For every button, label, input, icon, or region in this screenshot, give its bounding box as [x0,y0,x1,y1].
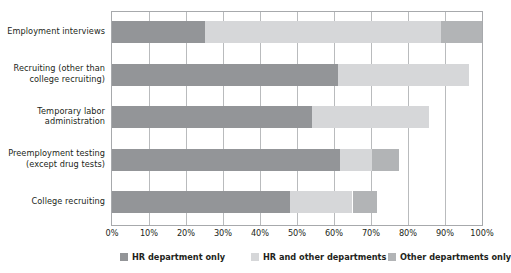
bar-segment [338,64,469,86]
bar-row [112,21,482,43]
legend-label: HR and other departments [263,252,386,262]
category-axis-labels: Employment interviewsRecruiting (other t… [0,11,105,226]
bar-row [112,106,482,128]
bar-segment [340,149,373,171]
legend-item[interactable]: HR department only [120,252,225,262]
category-label-line: Temporary labor [0,106,105,117]
x-tick-label: 40% [251,228,269,238]
bar-row [112,191,482,213]
category-label-line: administration [0,116,105,127]
category-label-line: Preemployment testing [0,148,105,159]
x-tick-label: 70% [362,228,380,238]
category-label-line: Recruiting (other than [0,63,105,74]
bar-row [112,149,482,171]
bar-segment [112,21,205,43]
bar-segment [312,106,429,128]
category-label-line: (except drug tests) [0,159,105,170]
x-tick-label: 100% [470,228,493,238]
legend-swatch-icon [388,253,396,261]
category-label: Temporary laboradministration [0,106,105,127]
x-tick-label: 90% [436,228,454,238]
x-tick-label: 60% [325,228,343,238]
category-label: Employment interviews [0,26,105,37]
bar-segment [205,21,442,43]
bar-segment [372,149,399,171]
x-axis-tick-labels: 0%10%20%30%40%50%60%70%80%90%100% [111,228,483,242]
legend-label: Other departments only [400,252,511,262]
legend-item[interactable]: Other departments only [388,252,511,262]
chart-legend: HR department onlyHR and other departmen… [111,252,491,266]
category-label: Preemployment testing(except drug tests) [0,148,105,169]
bar-row [112,64,482,86]
legend-label: HR department only [132,252,225,262]
bar-segment [112,106,312,128]
bar-segment [112,149,340,171]
category-label-line: College recruiting [0,196,105,207]
x-tick-label: 50% [288,228,306,238]
bar-segment [112,191,290,213]
legend-item[interactable]: HR and other departments [251,252,386,262]
category-label-line: college recruiting) [0,74,105,85]
x-tick-label: 0% [106,228,119,238]
legend-swatch-icon [251,253,259,261]
x-tick-label: 30% [214,228,232,238]
bars-layer [112,12,482,225]
category-label: College recruiting [0,196,105,207]
category-label: Recruiting (other thancollege recruiting… [0,63,105,84]
bar-segment [290,191,353,213]
bar-segment [353,191,378,213]
x-tick-label: 20% [177,228,195,238]
category-label-line: Employment interviews [0,26,105,37]
bar-segment [441,21,482,43]
x-tick-label: 80% [399,228,417,238]
x-tick-label: 10% [140,228,158,238]
bar-segment [112,64,338,86]
legend-swatch-icon [120,253,128,261]
